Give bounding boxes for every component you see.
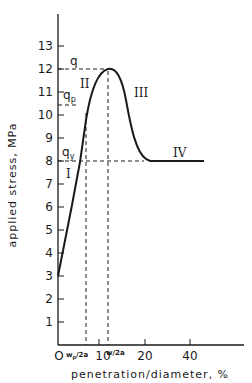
- qp-label: qp: [63, 88, 76, 104]
- y-axis-title: applied stress, MPa: [6, 123, 19, 248]
- y-tick-6: 6: [45, 200, 53, 214]
- x-tick-20: 20: [137, 349, 152, 363]
- y-tick-3: 3: [45, 269, 53, 283]
- wp-2a-label: wp/2a: [66, 351, 88, 361]
- y-tick-9: 9: [45, 131, 53, 145]
- x-ticks: [99, 339, 190, 345]
- y-tick-12: 12: [38, 62, 53, 76]
- w-2a-label: w/2a: [106, 349, 125, 357]
- y-tick-1: 1: [45, 315, 53, 329]
- x-axis-title: penetration/diameter, %: [71, 368, 229, 381]
- y-tick-13: 13: [38, 39, 53, 53]
- q-label: q: [70, 54, 78, 68]
- y-tick-11: 11: [38, 85, 53, 99]
- y-tick-8: 8: [45, 154, 53, 168]
- qy-label: qy: [62, 145, 75, 161]
- y-tick-2: 2: [45, 292, 53, 306]
- region-IV-label: IV: [173, 146, 187, 160]
- y-tick-4: 4: [45, 246, 53, 260]
- region-III-label: III: [134, 86, 148, 100]
- y-tick-labels: 1 2 3 4 5 6 7 8 9 10 11 12 13: [38, 39, 53, 329]
- origin-label: O: [54, 349, 63, 363]
- y-tick-5: 5: [45, 223, 53, 237]
- stress-curve: [58, 69, 204, 276]
- y-tick-10: 10: [38, 108, 53, 122]
- region-I-label: I: [66, 167, 71, 181]
- region-II-label: II: [80, 77, 90, 91]
- stress-penetration-chart: 1 2 3 4 5 6 7 8 9 10 11 12 13 O 10 20 40…: [0, 0, 252, 383]
- y-tick-7: 7: [45, 177, 53, 191]
- x-tick-40: 40: [182, 349, 197, 363]
